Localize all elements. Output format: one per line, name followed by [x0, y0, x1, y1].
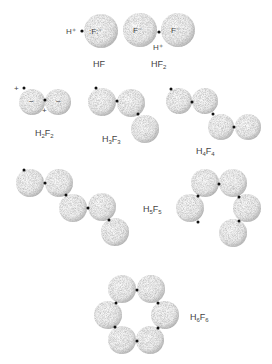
minus-sign: − — [56, 97, 61, 106]
proton-dot — [238, 196, 241, 199]
proton-dot — [80, 29, 83, 32]
fluorine-atom — [88, 193, 116, 221]
fluorine-label-right: F⁻ — [171, 26, 180, 35]
fluorine-atom — [208, 114, 234, 140]
fluorine-atom — [137, 275, 165, 303]
fluorine-atom — [94, 301, 122, 329]
minus-sign: − — [29, 97, 34, 106]
proton-dot — [87, 207, 90, 210]
fluorine-atom — [117, 89, 145, 117]
fluorine-atom — [108, 275, 136, 303]
fluorine-atom — [16, 169, 44, 197]
molecule-label-h3f3: H3F3 — [102, 134, 121, 145]
proton-dot — [114, 326, 117, 329]
proton-dot — [23, 169, 26, 172]
proton-dot — [23, 87, 26, 90]
plus-sign: + — [42, 106, 47, 115]
molecule-h4f4: H4F4 — [166, 88, 261, 158]
proton-dot — [191, 101, 194, 104]
fluorine-atom — [136, 326, 164, 354]
hydrogen-label: H⁺ — [66, 27, 76, 36]
fluorine-atom — [101, 218, 129, 246]
fluorine-atom — [219, 169, 247, 197]
fluorine-atom — [59, 194, 87, 222]
fluorine-atom — [131, 115, 159, 143]
proton-dot — [238, 220, 241, 223]
molecule-label-h5f5: H5F5 — [143, 204, 162, 215]
hf-oligomer-diagram: H⁺ :F:⁻ HF F⁻ F⁻ H⁺ HF2 + + − − H2F2 H3F… — [0, 0, 272, 364]
plus-sign: + — [14, 84, 19, 93]
fluorine-atom — [88, 88, 116, 116]
proton-dot — [65, 194, 68, 197]
fluorine-atom — [151, 301, 179, 329]
hydrogen-label: H⁺ — [153, 43, 163, 52]
molecule-hf2: F⁻ F⁻ H⁺ HF2 — [123, 13, 195, 70]
molecule-hf: H⁺ :F:⁻ HF — [66, 14, 118, 69]
molecule-h3f3: H3F3 — [88, 87, 159, 146]
fluorine-atom — [108, 326, 136, 354]
fluorine-atom — [192, 88, 218, 114]
proton-dot — [95, 87, 98, 90]
molecule-label-hf: HF — [93, 59, 105, 69]
proton-dot — [44, 182, 47, 185]
molecule-label-h4f4: H4F4 — [196, 146, 215, 157]
fluorine-label: :F:⁻ — [89, 27, 102, 36]
proton-dot — [197, 195, 200, 198]
molecule-h5f5-ring — [176, 169, 261, 247]
proton-dot — [157, 327, 160, 330]
fluorine-atom — [219, 219, 247, 247]
proton-dot — [233, 126, 236, 129]
molecule-label-h2f2: H2F2 — [35, 128, 54, 139]
proton-dot — [108, 219, 111, 222]
proton-dot — [197, 221, 200, 224]
proton-dot — [137, 113, 140, 116]
proton-dot — [218, 183, 221, 186]
proton-dot — [136, 340, 139, 343]
proton-dot — [136, 289, 139, 292]
proton-dot — [44, 99, 47, 102]
molecule-h2f2: + + − − H2F2 — [14, 84, 71, 139]
proton-dot — [116, 100, 119, 103]
proton-dot — [115, 302, 118, 305]
fluorine-atom — [166, 88, 192, 114]
fluorine-label-left: F⁻ — [133, 26, 142, 35]
molecule-label-hf2: HF2 — [151, 59, 167, 70]
fluorine-atom — [45, 169, 73, 197]
proton-dot — [212, 113, 215, 116]
proton-dot — [170, 88, 173, 91]
proton-dot — [157, 302, 160, 305]
molecule-h6f6-ring: H6F6 — [94, 275, 209, 354]
proton-dot — [157, 30, 160, 33]
fluorine-atom — [176, 194, 204, 222]
fluorine-atom — [235, 114, 261, 140]
molecule-h5f5-chain — [16, 169, 129, 247]
molecule-label-h6f6: H6F6 — [190, 312, 209, 323]
fluorine-atom — [233, 194, 261, 222]
fluorine-atom — [191, 169, 219, 197]
